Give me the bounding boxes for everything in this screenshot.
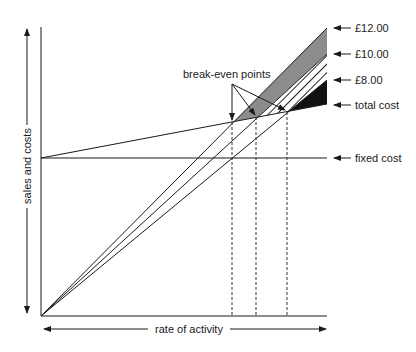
- label-total-cost: total cost: [355, 99, 399, 111]
- label-price-10: £10.00: [355, 48, 389, 60]
- break-even-label: break-even points: [183, 68, 271, 80]
- y-axis-label: sales and costs: [21, 128, 33, 204]
- sales-line-8: [41, 80, 327, 316]
- y-axis-label-group: sales and costs: [21, 29, 33, 313]
- total-cost-line: [41, 104, 327, 158]
- x-axis-label-group: rate of activity: [44, 323, 326, 335]
- break-even-diagram: break-even points £12.00 £10.00 £8.00 to…: [0, 0, 416, 352]
- label-fixed-cost: fixed cost: [355, 152, 401, 164]
- right-labels: £12.00 £10.00 £8.00 total cost fixed cos…: [334, 22, 401, 164]
- sales-line-10: [41, 54, 327, 316]
- x-axis-label: rate of activity: [155, 323, 223, 335]
- label-price-8: £8.00: [355, 74, 383, 86]
- label-price-12: £12.00: [355, 22, 389, 34]
